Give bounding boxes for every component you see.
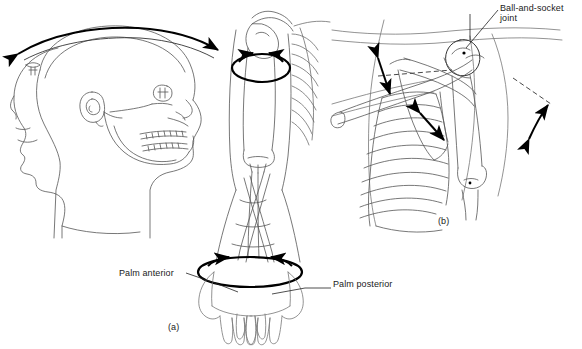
elbow-dot <box>469 182 472 185</box>
label-panel-a: (a) <box>168 322 179 332</box>
anatomy-figure <box>0 0 582 349</box>
label-ball-and-socket-joint: Ball-and-socket joint <box>500 3 564 23</box>
label-palm-posterior: Palm posterior <box>333 279 392 289</box>
label-panel-b: (b) <box>438 216 449 226</box>
label-ball-and-socket-line2: joint <box>500 13 564 23</box>
label-palm-anterior: Palm anterior <box>119 268 174 278</box>
label-ball-and-socket-line1: Ball-and-socket <box>500 3 564 13</box>
joint-center-dot <box>462 51 465 54</box>
figure-background <box>0 0 582 349</box>
